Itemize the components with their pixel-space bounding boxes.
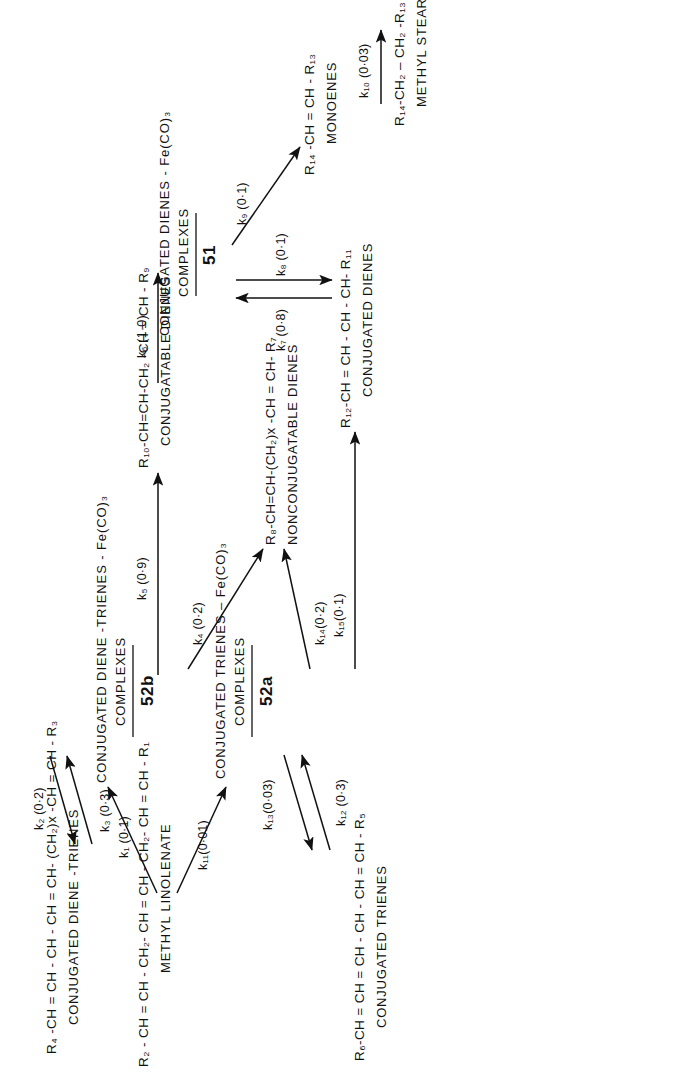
species-conjugated-diene-complexes-line1: CONJUGATED DIENES - Fe(CO)₃ bbox=[157, 111, 172, 336]
rate-label-k4: k₄ (0·2) bbox=[191, 602, 205, 645]
rate-label-k8: k₈ (0·1) bbox=[274, 233, 288, 276]
species-methyl-stearate-formula: R₁₄-CH₂ – CH₂ -R₁₃ bbox=[392, 2, 407, 126]
rate-label-k3: k₃ (0·3) bbox=[98, 789, 112, 832]
rate-label-k14: k₁₄(0·2) bbox=[313, 601, 327, 645]
species-methyl-stearate-name: METHYL STEARATE bbox=[414, 0, 429, 107]
species-nonconjugatable-dienes-name: NONCONJUGATABLE DIENES bbox=[285, 344, 300, 545]
species-nonconjugatable-dienes-formula: R₈-CH=CH-(CH₂)x -CH = CH- R₇ bbox=[263, 337, 278, 545]
species-conjugated-trienes-formula: R₆-CH = CH = CH - CH - CH = CH - R₅ bbox=[352, 813, 367, 1061]
arrow-k14 bbox=[284, 549, 310, 669]
arrow-k13 bbox=[284, 755, 312, 850]
rate-label-k1: k₁ (0·1) bbox=[117, 816, 131, 858]
species-methyl-linolenate-name: METHYL LINOLENATE bbox=[158, 824, 173, 973]
rate-label-k7: k₇ (0·8) bbox=[274, 309, 288, 351]
species-monoenes-formula: R₁₄ -CH = CH - R₁₃ bbox=[302, 54, 317, 175]
species-conjugated-diene-trienes-name: CONJUGATED DIENE -TRIENES bbox=[66, 809, 81, 1025]
species-methyl-linolenate-formula: R₂ - CH = CH - CH₂- CH = CH - CH₂- CH = … bbox=[136, 742, 151, 1067]
species-conjugated-diene-trienes-formula: R₄ -CH = CH - CH - CH = CH- (CH₂)x -CH =… bbox=[44, 720, 59, 1054]
arrow-k12 bbox=[302, 755, 330, 850]
species-monoenes-name: MONOENES bbox=[324, 62, 339, 144]
species-conjugated-diene-triene-complexes-line2: COMPLEXES bbox=[113, 637, 128, 726]
species-conjugated-diene-triene-complexes-line1: CONJUGATED DIENE -TRIENES - Fe(CO)₃ bbox=[94, 495, 109, 783]
species-label-51: 51 bbox=[200, 245, 220, 265]
rate-label-k13: k₁₃(0·03) bbox=[261, 779, 275, 830]
species-conjugated-triene-complexes-line1: CONJUGATED TRIENES – Fe(CO)₃ bbox=[213, 542, 228, 779]
species-label-52a: 52a bbox=[257, 676, 277, 706]
rate-label-k9: k₉ (0·1) bbox=[235, 182, 249, 225]
species-conjugated-triene-complexes-line2: COMPLEXES bbox=[232, 637, 247, 726]
rate-label-k15: k₁₅(0·1) bbox=[332, 594, 346, 638]
rate-label-k10: k₁₀ (0·03) bbox=[357, 44, 371, 98]
species-conjugated-dienes-formula: R₁₂-CH = CH - CH - CH- R₁₁ bbox=[338, 249, 353, 428]
species-conjugated-trienes-name: CONJUGATED TRIENES bbox=[374, 865, 389, 1028]
rate-label-k6: k₆ (1·0) bbox=[135, 315, 149, 358]
species-conjugatable-dienes-formula: R₁₀-CH=CH-CH₂ -CH = CH - R₉ bbox=[136, 267, 151, 468]
species-label-52b: 52b bbox=[138, 675, 158, 706]
species-conjugated-dienes-name: CONJUGATED DIENES bbox=[360, 243, 375, 397]
rate-label-k12: k₁₂ (0·3) bbox=[334, 779, 348, 826]
species-conjugated-diene-complexes-line2: COMPLEXES bbox=[176, 208, 191, 297]
rate-label-k5: k₅ (0·9) bbox=[135, 557, 149, 600]
reaction-scheme-canvas: R₂ - CH = CH - CH₂- CH = CH - CH₂- CH = … bbox=[0, 0, 686, 1073]
rate-label-k11: k₁₁(0·01) bbox=[196, 820, 210, 870]
